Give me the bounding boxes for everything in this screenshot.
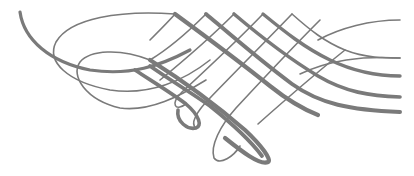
flourish-artwork xyxy=(0,0,414,176)
